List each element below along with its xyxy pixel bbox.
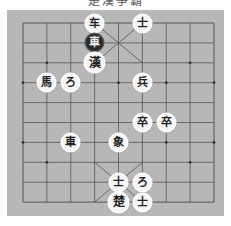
piece-elephant[interactable]: 象 xyxy=(110,134,127,151)
piece-advisor[interactable]: 士 xyxy=(134,194,151,211)
piece-advisor[interactable]: 士 xyxy=(134,15,151,32)
piece-general[interactable]: 楚 xyxy=(109,193,128,212)
piece-advisor[interactable]: 士 xyxy=(110,174,127,191)
piece-soldier[interactable]: 卒 xyxy=(158,114,175,131)
piece-soldier[interactable]: 兵 xyxy=(134,74,151,91)
piece-cannon[interactable]: ろ xyxy=(134,174,151,191)
piece-soldier[interactable]: 卒 xyxy=(134,114,151,131)
game-title: 楚漢爭霸 xyxy=(0,0,231,8)
piece-chariot[interactable]: 车 xyxy=(86,15,103,32)
